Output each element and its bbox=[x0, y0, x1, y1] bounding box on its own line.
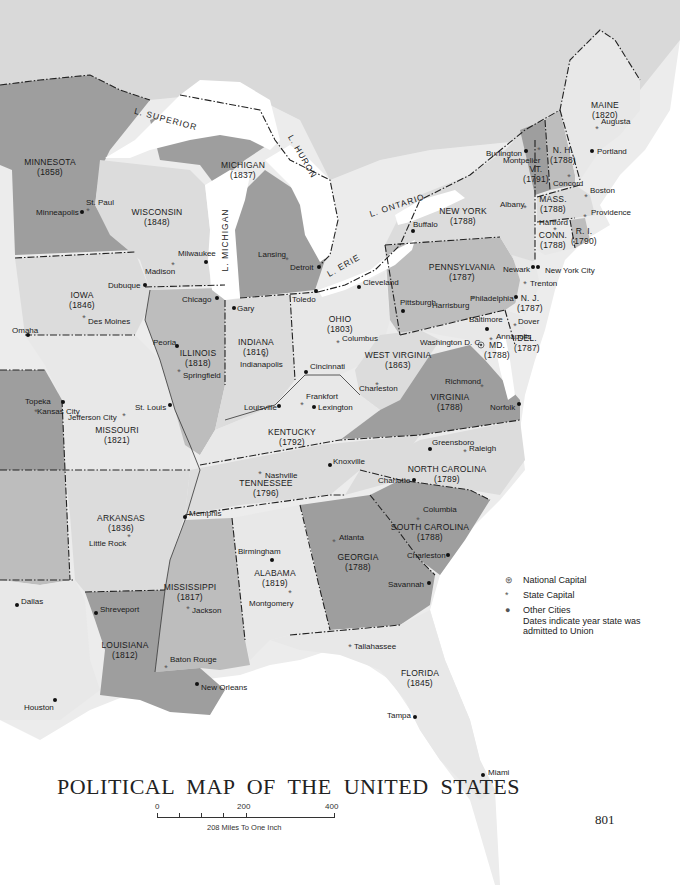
state-name: OHIO bbox=[329, 314, 352, 324]
city-label: Baton Rouge bbox=[170, 655, 217, 664]
city-dot-icon bbox=[53, 698, 57, 702]
state-capital-star-icon: * bbox=[416, 515, 420, 525]
state-admission-year: (1788) bbox=[550, 155, 576, 165]
map-title: POLITICAL MAP OF THE UNITED STATES bbox=[57, 774, 520, 800]
state-admission-year: (1817) bbox=[177, 592, 203, 602]
page-number: 801 bbox=[595, 812, 615, 828]
city-marker: Lexington bbox=[312, 403, 353, 412]
scale-tick-label: 200 bbox=[237, 802, 250, 811]
city-label: Buffalo bbox=[413, 220, 438, 229]
city-label: Montpelier bbox=[503, 156, 541, 165]
city-dot-icon bbox=[215, 296, 219, 300]
state-label: IOWA(1846) bbox=[69, 290, 95, 310]
city-dot-icon bbox=[168, 403, 172, 407]
city-label: Memphis bbox=[189, 509, 221, 518]
state-name: N. H. bbox=[553, 145, 573, 155]
city-label: Houston bbox=[24, 703, 54, 712]
city-label: Tallahassee bbox=[354, 642, 397, 651]
state-admission-year: (1848) bbox=[144, 217, 170, 227]
city-marker: *Tallahassee bbox=[348, 642, 397, 652]
city-dot-icon bbox=[312, 405, 316, 409]
city-dot-icon bbox=[314, 289, 318, 293]
city-label: Charleston bbox=[359, 384, 398, 393]
city-label: Nashville bbox=[265, 471, 298, 480]
city-dot-icon bbox=[517, 402, 521, 406]
city-dot-icon bbox=[413, 715, 417, 719]
city-marker: Charlotte bbox=[378, 476, 416, 485]
state-capital-star-icon: * bbox=[523, 279, 527, 289]
state-capital-star-icon: * bbox=[336, 338, 340, 348]
city-label: Des Moines bbox=[88, 317, 130, 326]
city-label: Louisville bbox=[244, 403, 277, 412]
city-label: Raleigh bbox=[469, 444, 496, 453]
city-dot-icon bbox=[15, 603, 19, 607]
state-label: MASS.(1788) bbox=[539, 194, 566, 214]
state-admission-year: (1845) bbox=[407, 678, 433, 688]
city-label: Madison bbox=[145, 267, 175, 276]
state-capital-star-icon: * bbox=[300, 400, 304, 410]
city-dot-icon bbox=[411, 229, 415, 233]
state-capital-icon: * bbox=[505, 590, 523, 600]
state-admission-year: (1803) bbox=[327, 324, 353, 334]
state-name: ILLINOIS bbox=[180, 348, 217, 358]
state-name: NORTH CAROLINA bbox=[408, 464, 487, 474]
city-label: St. Louis bbox=[135, 403, 166, 412]
city-dot-icon bbox=[412, 478, 416, 482]
city-marker: Knoxville bbox=[328, 457, 366, 467]
state-label: OHIO(1803) bbox=[327, 314, 353, 334]
city-label: Dallas bbox=[21, 597, 43, 606]
city-marker: Washington D. C. bbox=[420, 338, 484, 348]
city-label: Montgomery bbox=[249, 599, 293, 608]
state-name: MASS. bbox=[539, 194, 566, 204]
scale-tick-label: 400 bbox=[325, 802, 338, 811]
city-label: Indianapolis bbox=[240, 360, 283, 369]
state-capital-star-icon: * bbox=[584, 192, 588, 202]
city-label: Shreveport bbox=[100, 605, 140, 614]
city-dot-icon bbox=[232, 306, 236, 310]
state-name: PENNSYLVANIA bbox=[429, 262, 495, 272]
state-name: IOWA bbox=[70, 290, 93, 300]
state-admission-year: (1788) bbox=[450, 216, 476, 226]
city-dot-icon bbox=[317, 265, 321, 269]
state-name: INDIANA bbox=[238, 337, 274, 347]
city-dot-icon bbox=[61, 400, 65, 404]
state-admission-year: (1821) bbox=[104, 435, 130, 445]
city-dot-icon bbox=[590, 149, 594, 153]
city-label: Concord bbox=[553, 179, 583, 188]
scale-tick bbox=[223, 813, 224, 818]
city-label: Dover bbox=[518, 317, 540, 326]
scale-tick bbox=[201, 813, 202, 818]
city-label: Jackson bbox=[192, 606, 221, 615]
city-label: Annapolis bbox=[496, 332, 531, 341]
city-label: Columbia bbox=[423, 505, 457, 514]
city-label: Topeka bbox=[25, 397, 51, 406]
city-label: Savannah bbox=[388, 580, 424, 589]
state-admission-year: (1787) bbox=[514, 343, 540, 353]
legend-note: Dates indicate year state was admitted t… bbox=[523, 617, 663, 636]
city-label: New York City bbox=[545, 266, 595, 275]
state-capital-star-icon: * bbox=[583, 212, 587, 222]
state-name: WEST VIRGINIA bbox=[365, 350, 432, 360]
state-admission-year: (1846) bbox=[69, 300, 95, 310]
state-admission-year: (1787) bbox=[449, 272, 475, 282]
city-dot-icon bbox=[428, 447, 432, 451]
state-admission-year: (1788) bbox=[437, 402, 463, 412]
city-marker: Peoria bbox=[153, 338, 179, 348]
city-label: Norfolk bbox=[490, 403, 516, 412]
city-dot-icon: ● bbox=[505, 605, 523, 615]
city-dot-icon bbox=[328, 463, 332, 467]
city-label: Frankfort bbox=[306, 392, 339, 401]
state-texas-east bbox=[0, 580, 100, 720]
legend-label: National Capital bbox=[523, 575, 587, 585]
city-dot-icon bbox=[94, 611, 98, 615]
state-name: WISCONSIN bbox=[132, 207, 183, 217]
state-name: GEORGIA bbox=[337, 552, 378, 562]
city-label: Springfield bbox=[183, 371, 221, 380]
city-marker: Memphis bbox=[183, 509, 221, 519]
city-label: Albany bbox=[500, 200, 524, 209]
legend-item-other-cities: ● Other Cities bbox=[505, 602, 663, 617]
state-name: MAINE bbox=[591, 100, 619, 110]
city-label: Gary bbox=[237, 304, 254, 313]
city-dot-icon bbox=[204, 260, 208, 264]
city-label: Baltimore bbox=[469, 315, 503, 324]
